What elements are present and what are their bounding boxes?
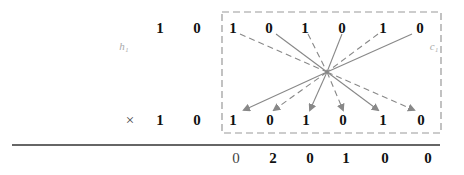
multiplicand-box-digit-2: 0: [265, 21, 273, 36]
multiplier-box-digit-4: 0: [339, 113, 347, 128]
multiplicand-box-digit-5: 1: [379, 21, 387, 36]
arrow-1: [244, 72, 327, 110]
highlight-box: [222, 12, 441, 133]
result-digit-1: 0: [232, 151, 240, 166]
multiplicand-box-digit-1: 1: [229, 21, 237, 36]
multiplier-box-digit-6: 0: [417, 113, 425, 128]
bottom-arrows: [244, 72, 414, 110]
multiplier-left-digit-1: 1: [156, 113, 164, 128]
multiplicand-left-digit-2: 0: [193, 21, 201, 36]
top-connection-lines: [240, 34, 412, 72]
result-digit-6: 0: [424, 151, 432, 166]
result-digit-3: 0: [306, 151, 314, 166]
multiplicand-left-digit-1: 1: [156, 21, 164, 36]
multiplicand-box-digit-6: 0: [416, 21, 424, 36]
left-label: h₁: [119, 40, 128, 52]
multiply-operator: ×: [126, 113, 134, 128]
multiplier-left-digit-2: 0: [193, 113, 201, 128]
multiplier-box-digit-2: 0: [266, 113, 274, 128]
result-digit-5: 0: [381, 151, 389, 166]
result-digit-4: 1: [342, 151, 350, 166]
result-digit-2: 2: [269, 151, 277, 166]
top-line-2: [276, 34, 327, 72]
multiplier-box-digit-1: 1: [229, 113, 237, 128]
multiplicand-box-digit-3: 1: [301, 21, 309, 36]
right-label: c₁: [430, 40, 439, 52]
multiplier-box-digit-5: 1: [379, 113, 387, 128]
multiplicand-box-digit-4: 0: [338, 21, 346, 36]
multiplier-box-digit-3: 1: [302, 113, 310, 128]
top-line-3: [308, 34, 327, 72]
